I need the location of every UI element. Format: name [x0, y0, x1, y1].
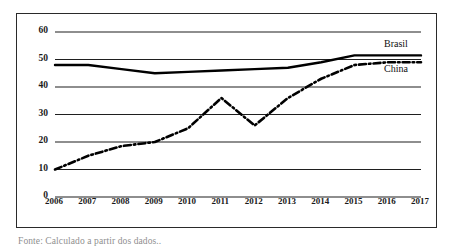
figure-container: 0102030405060 20062007200820092010201120… [0, 0, 460, 248]
figure-caption: Fonte: Calculado a partir dos dados.. [18, 236, 161, 246]
y-tick-label-50: 50 [24, 53, 48, 63]
y-tick-label-20: 20 [24, 135, 48, 145]
series-label-china: China [384, 63, 408, 74]
x-tick-label-2010: 2010 [170, 196, 204, 206]
series-label-brasil: Brasil [384, 38, 408, 49]
series-line-china [55, 62, 421, 169]
x-tick-label-2011: 2011 [203, 196, 237, 206]
x-tick-label-2015: 2015 [336, 196, 370, 206]
y-tick-label-30: 30 [24, 108, 48, 118]
x-tick-label-2017: 2017 [403, 196, 437, 206]
x-tick-label-2014: 2014 [303, 196, 337, 206]
x-tick-label-2012: 2012 [237, 196, 271, 206]
y-tick-label-40: 40 [24, 80, 48, 90]
chart-plot-area [17, 14, 435, 226]
x-tick-label-2006: 2006 [37, 196, 71, 206]
x-tick-label-2009: 2009 [137, 196, 171, 206]
x-tick-label-2007: 2007 [70, 196, 104, 206]
x-tick-label-2016: 2016 [370, 196, 404, 206]
y-tick-label-60: 60 [24, 25, 48, 35]
x-tick-label-2008: 2008 [104, 196, 138, 206]
x-tick-label-2013: 2013 [270, 196, 304, 206]
y-tick-label-10: 10 [24, 163, 48, 173]
